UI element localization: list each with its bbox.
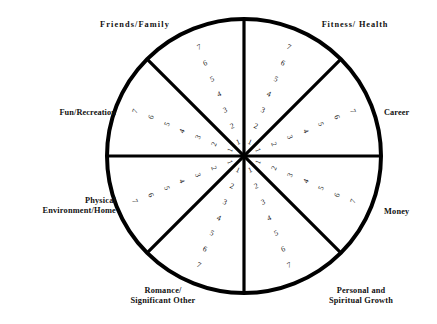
sector-label-romance-significant-other: Romance/ Significant Other — [106, 286, 220, 306]
sector-label-friends-family: Friends/Family — [76, 20, 194, 30]
wheel-spokes — [107, 19, 381, 293]
sector-label-fun-recreation: Fun/Recreation — [16, 108, 116, 118]
wheel-graphic — [0, 0, 437, 324]
sector-label-career: Career — [384, 108, 436, 118]
sector-label-personal-spiritual-growth: Personal and Spiritual Growth — [298, 286, 424, 306]
wheel-of-life-diagram: Friends/Family Fitness/ Health Career Mo… — [0, 0, 437, 324]
sector-label-fitness-health: Fitness/ Health — [296, 20, 414, 30]
sector-label-money: Money — [384, 207, 436, 217]
sector-label-physical-environment-home: Physical Environment/Home — [6, 196, 116, 216]
